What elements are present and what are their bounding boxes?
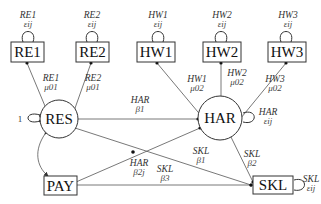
svg-text:μ02: μ02 — [189, 83, 204, 93]
svg-text:RES: RES — [45, 111, 73, 127]
node-re1: RE1 — [11, 42, 44, 62]
svg-text:μ01: μ01 — [85, 82, 100, 92]
svg-text:εij: εij — [307, 183, 316, 193]
svg-text:HW1: HW1 — [140, 44, 173, 60]
intersection-dot — [131, 150, 135, 154]
svg-text:εij: εij — [154, 19, 163, 29]
svg-text:β1: β1 — [135, 104, 145, 114]
svg-text:εij: εij — [24, 19, 33, 29]
svg-text:μ02: μ02 — [267, 83, 282, 93]
loop-re2 — [86, 32, 98, 43]
svg-text:μ02: μ02 — [229, 77, 244, 87]
svg-text:β2j: β2j — [132, 167, 145, 177]
node-skl: SKL — [253, 176, 293, 194]
svg-text:εij: εij — [88, 19, 97, 29]
res-variance-label: 1 — [18, 114, 23, 124]
node-hw1: HW1 — [137, 42, 175, 62]
loop-hw2 — [215, 32, 227, 43]
loop-re1 — [22, 32, 34, 43]
edge-res-pay-covariance — [38, 134, 48, 176]
svg-text:μ01: μ01 — [43, 82, 58, 92]
svg-text:HW3: HW3 — [271, 44, 304, 60]
svg-text:HAR: HAR — [204, 110, 236, 126]
node-pay: PAY — [44, 176, 77, 195]
loop-hw1 — [152, 32, 164, 43]
node-hw3: HW3 — [268, 42, 306, 62]
svg-text:εij: εij — [284, 19, 293, 29]
svg-text:β1: β1 — [196, 155, 206, 165]
node-re2: RE2 — [76, 42, 109, 62]
node-hw2: HW2 — [203, 42, 241, 62]
svg-text:SKL: SKL — [259, 177, 287, 193]
edge-labels: RE1 μ01 RE2 μ01 HW1 μ02 HW2 μ02 HW3 μ02 … — [42, 68, 285, 183]
node-res: RES — [40, 100, 78, 138]
svg-text:RE2: RE2 — [79, 44, 106, 60]
node-har: HAR — [198, 96, 242, 140]
svg-text:β3: β3 — [160, 173, 170, 183]
svg-text:εij: εij — [218, 19, 227, 29]
svg-text:RE1: RE1 — [14, 44, 41, 60]
loop-res — [28, 114, 40, 122]
svg-text:β2: β2 — [247, 158, 257, 168]
svg-text:PAY: PAY — [47, 178, 74, 194]
svg-text:εij: εij — [264, 116, 273, 126]
svg-text:HW2: HW2 — [206, 44, 239, 60]
path-diagram: 1 RE1 RE2 HW1 HW2 HW3 RES HAR PAY SKL RE… — [0, 0, 321, 204]
loop-hw3 — [280, 32, 292, 43]
